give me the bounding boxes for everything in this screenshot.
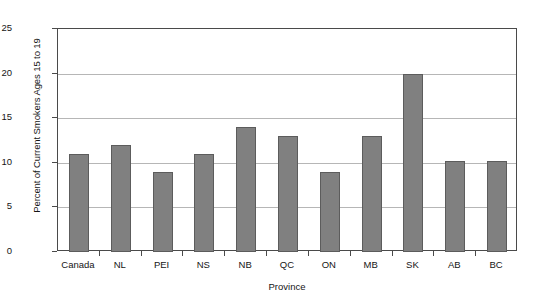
bar <box>278 136 298 252</box>
plot-area <box>57 28 517 251</box>
y-tick-mark <box>52 206 57 207</box>
bar <box>403 74 423 252</box>
x-tick-label: MB <box>350 259 392 270</box>
x-tick-label: BC <box>475 259 517 270</box>
gridline <box>58 74 516 75</box>
y-tick-label: 10 <box>0 157 12 167</box>
bar <box>445 161 465 252</box>
y-axis-title: Percent of Current Smokers Ages 15 to 19 <box>26 0 48 251</box>
x-tick-mark <box>475 251 476 256</box>
x-tick-mark <box>433 251 434 256</box>
x-tick-mark <box>350 251 351 256</box>
x-tick-label: SK <box>392 259 434 270</box>
y-tick-label: 15 <box>0 112 12 122</box>
x-tick-label: NL <box>99 259 141 270</box>
y-tick-label: 0 <box>0 246 12 256</box>
x-tick-label: AB <box>433 259 475 270</box>
x-tick-mark <box>99 251 100 256</box>
y-tick-mark <box>52 28 57 29</box>
bar <box>236 127 256 252</box>
y-tick-mark <box>52 251 57 252</box>
x-tick-mark <box>266 251 267 256</box>
x-tick-mark <box>224 251 225 256</box>
x-tick-label: NB <box>224 259 266 270</box>
bar <box>362 136 382 252</box>
x-tick-mark <box>141 251 142 256</box>
y-tick-label: 5 <box>0 201 12 211</box>
x-tick-label: Canada <box>57 259 99 270</box>
x-tick-label: PEI <box>141 259 183 270</box>
y-tick-label: 25 <box>0 23 12 33</box>
bar <box>153 172 173 252</box>
bar <box>69 154 89 252</box>
x-tick-label: ON <box>308 259 350 270</box>
x-tick-label: QC <box>266 259 308 270</box>
x-tick-label: NS <box>182 259 224 270</box>
y-tick-mark <box>52 73 57 74</box>
gridline <box>58 118 516 119</box>
bar <box>487 161 507 252</box>
x-tick-mark <box>392 251 393 256</box>
x-axis-title: Province <box>57 281 517 292</box>
bar <box>111 145 131 252</box>
bar <box>320 172 340 252</box>
x-tick-mark <box>308 251 309 256</box>
y-tick-mark <box>52 117 57 118</box>
bar <box>194 154 214 252</box>
y-tick-mark <box>52 162 57 163</box>
y-tick-label: 20 <box>0 68 12 78</box>
x-tick-mark <box>182 251 183 256</box>
bar-chart: Percent of Current Smokers Ages 15 to 19… <box>0 0 536 304</box>
